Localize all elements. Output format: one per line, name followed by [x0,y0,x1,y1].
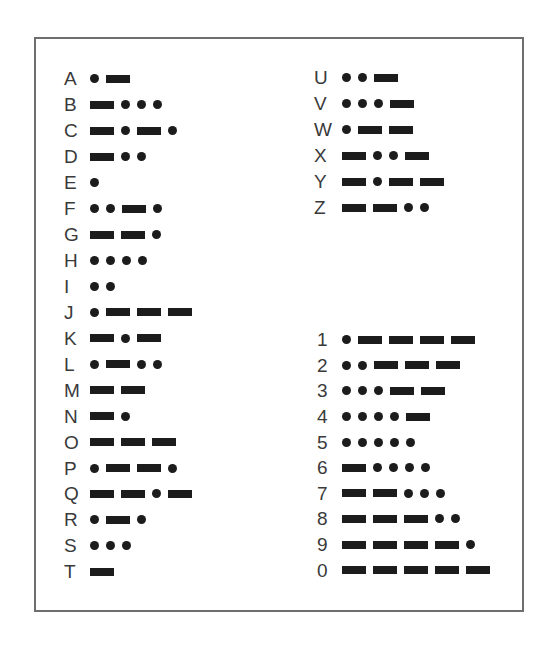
morse-code-sequence [90,412,130,421]
morse-character-label: Y [314,172,342,191]
morse-code-sequence [342,361,460,370]
morse-character-label: 5 [317,433,342,452]
morse-character-label: V [314,94,342,113]
morse-code-sequence [90,515,146,524]
morse-character-label: N [64,407,90,426]
dash-icon [90,127,114,135]
morse-row-2: 2 [317,353,490,379]
dash-icon [90,101,114,109]
morse-character-label: P [64,459,90,478]
dash-icon [106,75,130,83]
morse-character-label: K [64,329,90,348]
morse-row-y: Y [314,169,444,195]
dash-icon [405,152,429,160]
dash-icon [121,386,145,394]
dot-icon [90,282,99,291]
dot-icon [106,204,115,213]
dot-icon [90,515,99,524]
morse-row-4: 4 [317,404,490,430]
morse-code-sequence [342,412,430,421]
dash-icon [390,387,414,395]
dash-icon [90,568,114,576]
dot-icon [121,334,130,343]
morse-row-5: 5 [317,429,490,455]
morse-code-sequence [90,541,131,550]
morse-code-sequence [342,566,490,574]
dash-icon [404,541,428,549]
morse-code-sequence [90,386,145,394]
morse-code-sequence [90,178,99,187]
dash-icon [90,231,114,239]
morse-code-sequence [90,100,162,109]
morse-row-z: Z [314,195,444,221]
morse-character-label: W [314,120,342,139]
morse-character-label: U [314,68,342,87]
dot-icon [106,282,115,291]
dash-icon [421,387,445,395]
morse-row-u: U [314,65,444,91]
morse-code-sequence [90,204,162,213]
dash-icon [137,308,161,316]
morse-row-i: I [64,274,192,300]
morse-row-j: J [64,299,192,325]
morse-row-7: 7 [317,481,490,507]
morse-code-sequence [90,464,177,473]
dash-icon [106,360,130,368]
morse-code-sequence [342,99,414,108]
dash-icon [106,516,130,524]
letters-a-to-t-column: ABCDEFGHIJKLMNOPQRST [64,66,192,585]
dot-icon [342,361,351,370]
morse-row-h: H [64,248,192,274]
dot-icon [374,99,383,108]
morse-row-p: P [64,455,192,481]
morse-character-label: 9 [317,535,342,554]
dash-icon [404,515,428,523]
dash-icon [406,413,430,421]
morse-row-c: C [64,118,192,144]
dot-icon [342,386,351,395]
dot-icon [389,151,398,160]
morse-character-label: Q [64,484,90,503]
dot-icon [342,412,351,421]
dash-icon [90,386,114,394]
morse-code-sequence [90,438,176,446]
dot-icon [374,412,383,421]
morse-character-label: C [64,121,90,140]
dot-icon [168,126,177,135]
morse-row-a: A [64,66,192,92]
morse-code-sequence [342,203,429,212]
morse-character-label: E [64,173,90,192]
morse-code-sequence [90,489,192,498]
dash-icon [90,334,114,342]
morse-row-s: S [64,533,192,559]
morse-character-label: M [64,381,90,400]
dot-icon [358,99,367,108]
morse-row-d: D [64,144,192,170]
dash-icon [420,336,444,344]
morse-row-w: W [314,117,444,143]
dash-icon [106,464,130,472]
morse-code-sequence [90,256,147,265]
morse-character-label: 7 [317,484,342,503]
morse-row-x: X [314,143,444,169]
letters-u-to-z-column: UVWXYZ [314,65,444,221]
morse-character-label: 2 [317,356,342,375]
dot-icon [342,125,351,134]
morse-code-sequence [342,489,445,498]
morse-code-sequence [342,125,413,134]
dash-icon [137,464,161,472]
morse-character-label: D [64,147,90,166]
morse-row-8: 8 [317,506,490,532]
dash-icon [90,153,114,161]
morse-code-sequence [342,151,429,160]
dot-icon [390,412,399,421]
dot-icon [90,308,99,317]
morse-character-label: L [64,355,90,374]
dash-icon [373,204,397,212]
dot-icon [137,515,146,524]
dot-icon [121,152,130,161]
dot-icon [137,100,146,109]
dash-icon [168,490,192,498]
dot-icon [373,463,382,472]
morse-character-label: X [314,146,342,165]
